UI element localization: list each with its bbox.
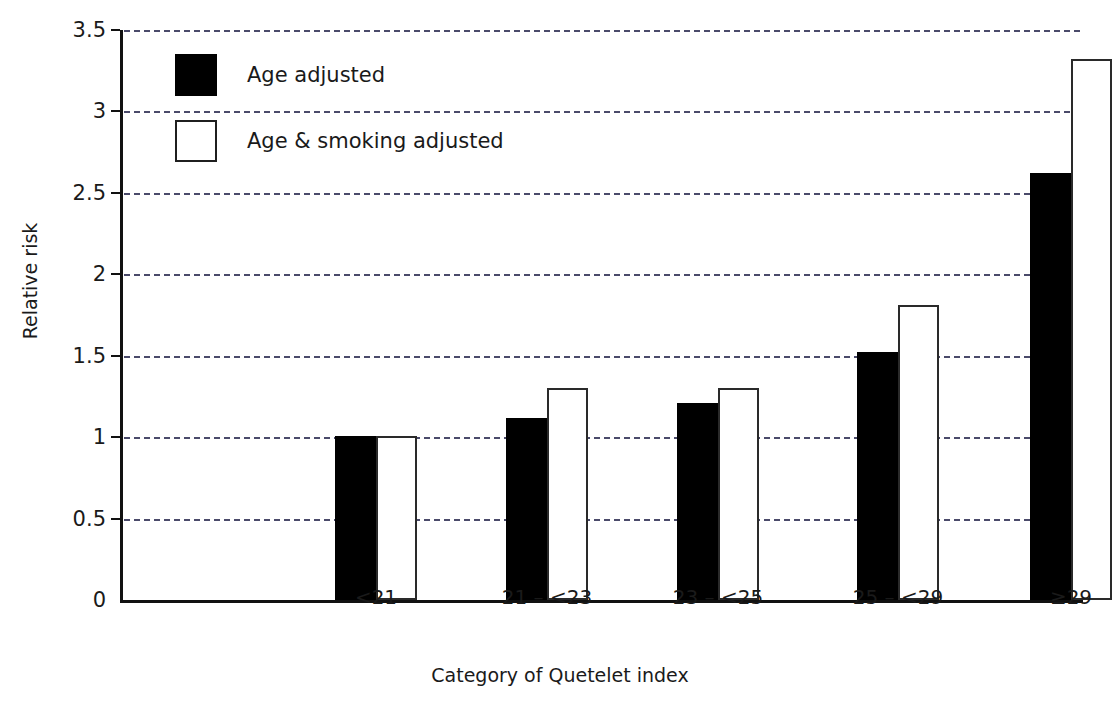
x-category-label: 21 – <23 — [502, 585, 592, 609]
legend: Age adjusted Age & smoking adjusted — [175, 52, 504, 184]
bar-age-adjusted — [1030, 173, 1071, 600]
bar-age-smoking-adjusted — [898, 305, 939, 600]
bar-age-adjusted — [857, 352, 898, 600]
y-tick-mark — [111, 518, 120, 520]
y-tick-label: 3 — [93, 99, 106, 123]
bar-age-adjusted — [506, 418, 547, 600]
y-tick-label: 3.5 — [73, 18, 106, 42]
y-tick-mark — [111, 110, 120, 112]
y-tick-mark — [111, 436, 120, 438]
y-tick-label: 1.5 — [73, 344, 106, 368]
legend-item-age-smoking-adjusted: Age & smoking adjusted — [175, 118, 504, 164]
legend-label: Age adjusted — [247, 63, 385, 87]
y-axis-line — [120, 30, 123, 602]
x-axis-title: Category of Quetelet index — [0, 664, 1120, 686]
legend-label: Age & smoking adjusted — [247, 129, 504, 153]
y-tick-label: 2.5 — [73, 181, 106, 205]
x-category-label: <21 — [355, 585, 397, 609]
bar-age-adjusted — [335, 436, 376, 600]
y-axis-title: Relative risk — [19, 191, 41, 371]
bar-age-smoking-adjusted — [1071, 59, 1112, 600]
y-tick-label: 2 — [93, 262, 106, 286]
bar-chart: Relative risk 00.511.522.533.5 <2121 – <… — [0, 0, 1120, 720]
x-category-label: 25 – <29 — [853, 585, 943, 609]
legend-swatch-filled-icon — [175, 54, 217, 96]
bar-age-adjusted — [677, 403, 718, 600]
legend-item-age-adjusted: Age adjusted — [175, 52, 504, 98]
legend-swatch-hollow-icon — [175, 120, 217, 162]
y-tick-label: 0.5 — [73, 507, 106, 531]
y-tick-label: 0 — [93, 588, 106, 612]
y-tick-mark — [111, 273, 120, 275]
x-category-label: ≥29 — [1050, 585, 1092, 609]
bar-age-smoking-adjusted — [376, 436, 417, 600]
y-tick-mark — [111, 29, 120, 31]
gridline — [124, 30, 1080, 32]
bar-age-smoking-adjusted — [547, 388, 588, 600]
gridline — [124, 193, 1080, 195]
y-tick-label: 1 — [93, 425, 106, 449]
gridline — [124, 274, 1080, 276]
x-category-label: 23 – <25 — [673, 585, 763, 609]
bar-age-smoking-adjusted — [718, 388, 759, 600]
y-tick-mark — [111, 192, 120, 194]
y-tick-mark — [111, 355, 120, 357]
